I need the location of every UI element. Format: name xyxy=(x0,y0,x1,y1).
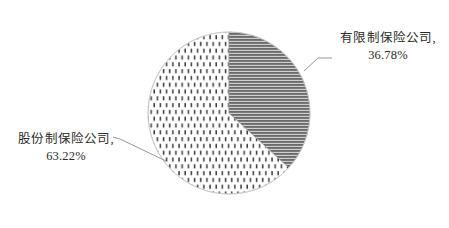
slice-label-joint-stock: 股份制保险公司, 63.22% xyxy=(12,131,120,165)
slice-label-limited-percent: 36.78% xyxy=(330,47,446,64)
pie-slices xyxy=(148,32,310,194)
slice-label-joint-stock-percent: 63.22% xyxy=(12,148,120,165)
slice-label-joint-stock-category: 股份制保险公司, xyxy=(12,131,120,148)
slice-label-limited: 有限制保险公司, 36.78% xyxy=(330,30,446,64)
pie-chart-figure: 有限制保险公司, 36.78% 股份制保险公司, 63.22% xyxy=(0,0,449,228)
leader-line-limited xyxy=(304,58,332,71)
slice-label-limited-category: 有限制保险公司, xyxy=(330,30,446,47)
